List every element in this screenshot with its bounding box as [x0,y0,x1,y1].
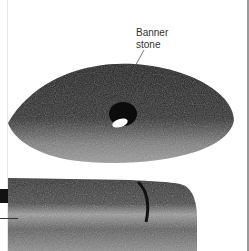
banner-stone-photo [0,0,249,251]
label-line-1: Banner [136,27,168,39]
margin-mark [0,189,8,203]
photo-frame: Banner stone [0,0,249,251]
margin-tick [0,218,18,219]
label-line-2: stone [136,39,168,51]
banner-stone-label: Banner stone [136,27,168,51]
